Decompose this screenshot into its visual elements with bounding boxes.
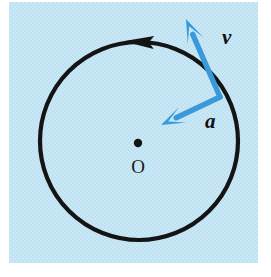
circular-motion-diagram: O v a bbox=[0, 0, 271, 277]
figure-root: O v a bbox=[0, 0, 271, 277]
acceleration-vector-label: a bbox=[205, 109, 216, 133]
center-point-label: O bbox=[131, 156, 145, 177]
velocity-vector-label: v bbox=[222, 25, 232, 49]
center-point-dot bbox=[134, 139, 142, 147]
